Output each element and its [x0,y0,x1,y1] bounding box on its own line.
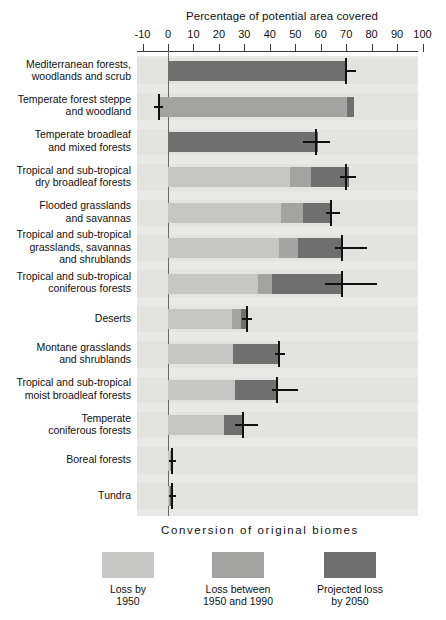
bar-segment [347,97,353,117]
bar-segment [233,344,279,364]
category-label-line: Montane grasslands [1,341,131,353]
marker-range-line [303,141,330,143]
category-label: Mediterranean forests,woodlands and scru… [1,58,131,83]
bar-segment [168,274,258,294]
bar-segment [168,415,224,435]
category-label-line: dry broadleaf forests [1,176,131,188]
category-label-line: Tropical and sub-tropical [1,228,131,240]
legend-swatch [324,552,376,578]
x-tick-label-80: 80 [365,28,377,40]
category-label: Deserts [1,312,131,324]
bar-segment [168,167,290,187]
legend-item: Loss between1950 and 1990 [183,552,293,608]
x-tick-label-90: 90 [391,28,403,40]
x-tick-80 [372,44,373,52]
marker-range-line [272,389,297,391]
category-label-line: and shrublands [1,353,131,365]
category-label-line: coniferous forests [1,424,131,436]
x-tick-90 [397,44,398,52]
category-label-line: Boreal forests [1,453,131,465]
legend-label-line: Loss between [183,583,293,595]
category-label-line: and mixed forests [1,141,131,153]
category-label-line: Tropical and sub-tropical [1,270,131,282]
x-tick-label-40: 40 [264,28,276,40]
category-label-line: and shrublands [1,253,131,265]
category-label: Montane grasslandsand shrublands [1,341,131,366]
bar-segment [235,380,277,400]
row-band [137,447,418,473]
marker-range-line [345,70,356,72]
category-label-line: Tropical and sub-tropical [1,376,131,388]
category-label: Flooded grasslandsand savannas [1,199,131,224]
bar-segment [159,97,347,117]
marker-range-line [154,106,163,108]
legend-label-line: Projected loss [295,583,405,595]
legend-item: Loss by1950 [73,552,183,608]
x-tick-label-60: 60 [315,28,327,40]
legend-label-line: 1950 [73,595,183,607]
category-label: Temperate broadleafand mixed forests [1,128,131,153]
category-label-line: woodlands and scrub [1,70,131,82]
legend-swatch [212,552,264,578]
bar-segment [168,238,279,258]
marker-range-line [340,176,357,178]
x-tick--10 [143,44,144,52]
x-tick-20 [219,44,220,52]
marker-range-line [169,460,175,462]
category-label-line: coniferous forests [1,282,131,294]
category-label-line: Temperate forest steppe [1,93,131,105]
x-tick-label-20: 20 [213,28,225,40]
bar-segment [168,132,318,152]
bar-segment [279,238,298,258]
category-label: Temperate forest steppeand woodland [1,93,131,118]
x-tick-60 [321,44,322,52]
category-label-line: Temperate broadleaf [1,128,131,140]
category-label-line: Deserts [1,312,131,324]
legend-label-line: Loss by [73,583,183,595]
marker-range-line [169,495,175,497]
category-label: Temperateconiferous forests [1,412,131,437]
category-label: Tundra [1,489,131,501]
legend-item: Projected lossby 2050 [295,552,405,608]
marker-range-line [325,283,377,285]
category-label-line: Flooded grasslands [1,199,131,211]
legend-swatch [102,552,154,578]
x-tick-label-0: 0 [165,28,171,40]
x-tick-50 [295,44,296,52]
row-band [137,483,418,509]
legend-title: Conversion of original biomes [110,524,410,536]
x-tick-70 [346,44,347,52]
bar-segment [281,203,303,223]
marker-range-line [326,212,340,214]
x-tick-10 [193,44,194,52]
legend-label-line: by 2050 [295,595,405,607]
x-axis-line [137,51,418,52]
category-label-line: and woodland [1,105,131,117]
category-label: Tropical and sub-tropicalgrasslands, sav… [1,228,131,265]
category-label-line: moist broadleaf forests [1,389,131,401]
bar-segment [168,203,281,223]
x-tick-label-100: 100 [413,28,431,40]
category-label-line: Tropical and sub-tropical [1,164,131,176]
category-label-line: and savannas [1,212,131,224]
x-tick-label-30: 30 [238,28,250,40]
category-label: Tropical and sub-tropicalmoist broadleaf… [1,376,131,401]
category-label-line: Mediterranean forests, [1,58,131,70]
chart-axis-title: Percentage of potential area covered [137,10,427,22]
legend-label-line: 1950 and 1990 [183,595,293,607]
bar-segment [168,309,232,329]
x-tick-label-50: 50 [289,28,301,40]
x-tick-100 [423,44,424,52]
marker-range-line [235,424,258,426]
category-label: Boreal forests [1,453,131,465]
bar-segment [168,61,346,81]
x-tick-30 [244,44,245,52]
marker-range-line [275,353,285,355]
chart-root: Percentage of potential area covered -10… [0,0,446,620]
x-tick-40 [270,44,271,52]
bar-segment [232,309,241,329]
bar-segment [290,167,310,187]
bar-segment [168,344,233,364]
category-label-line: Tundra [1,489,131,501]
x-tick-label-10: 10 [187,28,199,40]
